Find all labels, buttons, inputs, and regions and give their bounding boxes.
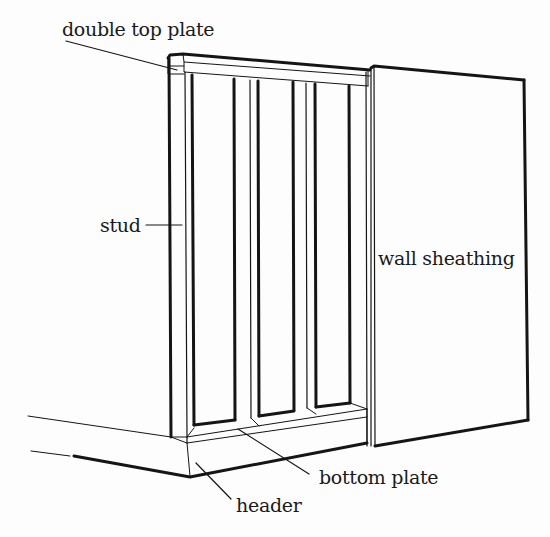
leader-double-top-plate [66,41,177,70]
double-top-plate [168,54,370,86]
stud-2 [234,79,259,420]
label-stud: stud [100,216,141,235]
label-wall-sheathing: wall sheathing [378,249,515,268]
bottom-plate [187,403,367,443]
label-bottom-plate: bottom plate [319,468,438,487]
header-floor [28,409,367,477]
stud-3 [293,82,316,410]
stud-4 [349,72,367,446]
label-double-top-plate: double top plate [62,20,214,39]
leader-header [196,463,231,499]
wall-framing-diagram: double top plate stud wall sheathing bot… [0,0,550,537]
end-stud-left [169,58,194,443]
label-header: header [236,496,302,515]
